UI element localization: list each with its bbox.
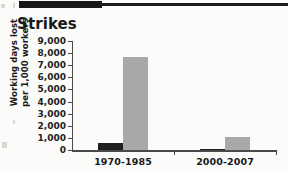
y-axis-tick — [68, 126, 72, 127]
y-axis-tick — [68, 65, 72, 66]
y-axis-tick — [68, 114, 72, 115]
y-axis-tick — [68, 77, 72, 78]
bar-dark-2000-2007 — [200, 149, 225, 150]
y-axis-tick — [68, 102, 72, 103]
y-axis-tick-label-text: 0 — [28, 146, 66, 155]
x-axis-category-label: 2000-2007 — [196, 156, 254, 167]
y-axis-line — [72, 41, 73, 151]
y-axis-tick — [68, 89, 72, 90]
scan-artifact — [13, 120, 15, 124]
bar-gray-1970-1985 — [123, 57, 148, 150]
bar-gray-2000-2007 — [225, 137, 250, 150]
y-axis-tick — [68, 138, 72, 139]
scan-artifact — [13, 3, 15, 8]
scan-artifact — [1, 4, 5, 8]
y-axis-tick-label-text: 8,000 — [28, 49, 66, 58]
x-axis-tick-end — [276, 150, 277, 155]
y-axis-title: Working days lost per 1,000 workers — [9, 15, 30, 111]
y-axis-tick — [68, 53, 72, 54]
y-axis-tick-label-text: 6,000 — [28, 73, 66, 82]
y-axis-tick — [68, 41, 72, 42]
chart-page: Strikes Working days lost per 1,000 work… — [0, 0, 288, 173]
scan-artifact — [2, 142, 7, 148]
y-axis-tick-label-text: 4,000 — [28, 97, 66, 106]
y-axis-tick-label-text: 1,000 — [28, 133, 66, 142]
y-axis-tick-label-text: 2,000 — [28, 121, 66, 130]
header-rule-thin — [102, 3, 288, 6]
x-axis-category-label: 1970-1985 — [94, 156, 152, 167]
header-rule-thick — [19, 1, 102, 8]
y-axis-title-line1: Working days lost — [9, 19, 19, 106]
y-axis-tick-label-text: 5,000 — [28, 85, 66, 94]
y-axis-tick — [68, 150, 72, 151]
y-axis-tick-label-text: 9,000 — [28, 37, 66, 46]
bar-dark-1970-1985 — [98, 143, 123, 150]
y-axis-tick-label-text: 7,000 — [28, 61, 66, 70]
y-axis-tick-label-text: 3,000 — [28, 109, 66, 118]
x-axis-tick — [174, 150, 175, 155]
